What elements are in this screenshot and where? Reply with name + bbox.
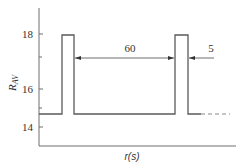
arrowhead-left (75, 56, 81, 60)
width-dimension: 5 (189, 42, 214, 60)
y-tick-label-16: 16 (22, 83, 34, 95)
width-label: 5 (208, 42, 214, 54)
y-tick-label-18: 18 (22, 28, 34, 40)
arrowhead-right (168, 56, 174, 60)
y-axis-label-sub: AV (11, 74, 20, 85)
interval-dimension: 60 (75, 42, 174, 60)
pulse-trace (39, 35, 201, 114)
interval-label: 60 (125, 42, 137, 54)
y-tick-label-14: 14 (22, 121, 34, 133)
x-axis-label: r(s) (125, 151, 140, 162)
axes (39, 8, 236, 146)
arrowhead-width (189, 56, 195, 60)
y-axis-label: RAV (6, 74, 20, 92)
pulse-chart: 18 16 14 RAV r(s) 60 5 (0, 0, 246, 166)
